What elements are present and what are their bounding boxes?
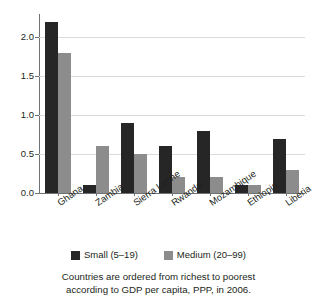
- legend-item-medium: Medium (20–99): [164, 250, 246, 260]
- plot-area: [39, 14, 305, 193]
- legend-item-small: Small (5–19): [71, 250, 138, 260]
- y-tick-label: 2.0: [0, 32, 34, 42]
- y-tick-mark: [35, 154, 39, 155]
- y-tick-label: 1.5: [0, 71, 34, 81]
- y-tick-mark: [35, 76, 39, 77]
- bar: [45, 22, 58, 193]
- gridline: [39, 37, 305, 38]
- gridline: [39, 115, 305, 116]
- legend-label-small: Small (5–19): [84, 250, 138, 260]
- legend-swatch-small-icon: [71, 251, 80, 260]
- y-tick-mark: [35, 37, 39, 38]
- y-tick-label: 1.0: [0, 110, 34, 120]
- y-tick-mark: [35, 193, 39, 194]
- y-tick-label: 0.5: [0, 149, 34, 159]
- chart-caption: Countries are ordered from richest to po…: [0, 270, 317, 296]
- chart-legend: Small (5–19) Medium (20–99): [0, 250, 317, 260]
- bar: [83, 185, 96, 193]
- bar: [58, 53, 71, 193]
- caption-line-2: according to GDP per capita, PPP, in 200…: [0, 283, 317, 296]
- bar: [134, 154, 147, 193]
- bar: [96, 146, 109, 193]
- legend-label-medium: Medium (20–99): [177, 250, 246, 260]
- gridline: [39, 76, 305, 77]
- y-axis-line: [39, 14, 40, 194]
- y-tick-mark: [35, 115, 39, 116]
- caption-line-1: Countries are ordered from richest to po…: [0, 270, 317, 283]
- legend-swatch-medium-icon: [164, 251, 173, 260]
- y-tick-label: 0.0: [0, 188, 34, 198]
- gridline: [39, 154, 305, 155]
- bar: [121, 123, 134, 193]
- bar-chart-figure: 0.00.51.01.52.0 GhanaZambiaSierra LeoneR…: [0, 0, 317, 305]
